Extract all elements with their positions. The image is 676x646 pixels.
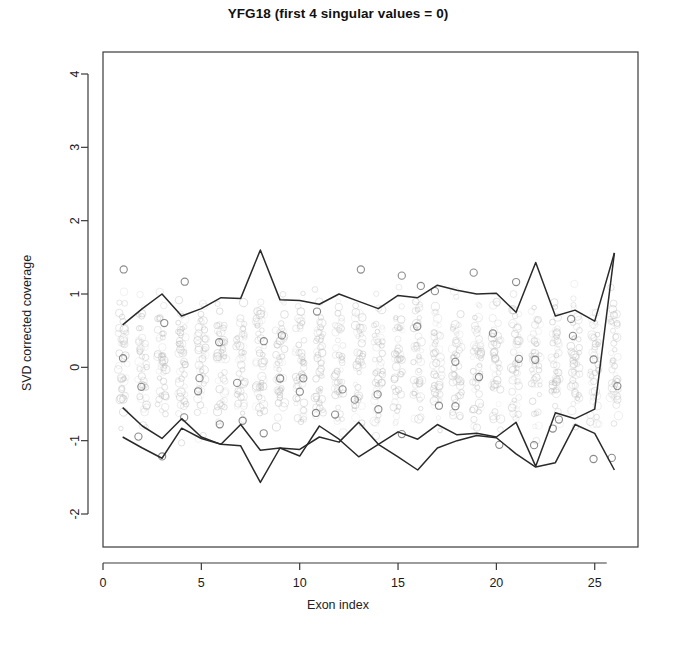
svg-text:-1: -1 — [68, 435, 82, 446]
svg-text:0: 0 — [100, 576, 107, 590]
svg-text:10: 10 — [293, 576, 307, 590]
svg-text:5: 5 — [198, 576, 205, 590]
svg-text:4: 4 — [68, 70, 82, 77]
chart-canvas: 0510152025-2-101234 — [0, 0, 676, 646]
svg-text:20: 20 — [489, 576, 503, 590]
svg-text:2: 2 — [68, 217, 82, 224]
svg-text:3: 3 — [68, 144, 82, 151]
svg-text:-2: -2 — [68, 508, 82, 519]
svg-text:25: 25 — [588, 576, 602, 590]
line-series-layer — [123, 250, 615, 482]
svg-text:1: 1 — [68, 290, 82, 297]
chart-plot-area: YFG18 (first 4 singular values = 0) SVD … — [0, 0, 676, 646]
svg-text:0: 0 — [68, 364, 82, 371]
svg-text:15: 15 — [391, 576, 405, 590]
